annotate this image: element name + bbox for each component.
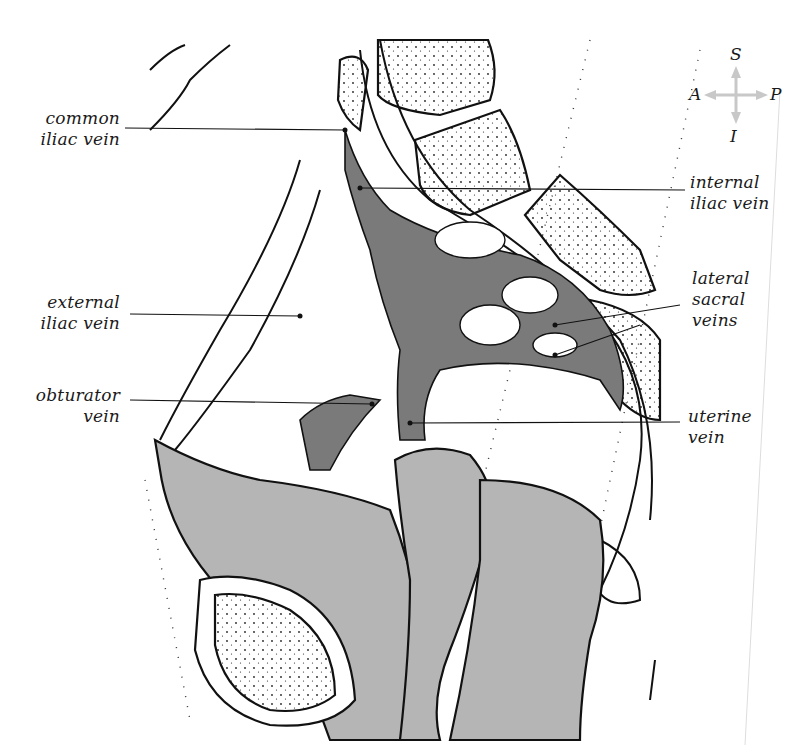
label-external-iliac-vein: external iliac vein (10, 292, 120, 334)
compass-posterior: P (770, 84, 781, 104)
orientation-compass-arrows (704, 66, 768, 124)
label-uterine-vein: uterine vein (688, 406, 788, 448)
label-internal-iliac-vein: internal iliac vein (690, 172, 795, 214)
pelvic-veins-diagram: S I A P common iliac vein external iliac… (0, 0, 796, 749)
label-lateral-sacral-veins: lateral sacral veins (692, 268, 792, 331)
compass-anterior: A (689, 84, 701, 104)
pelvic-organs (155, 440, 603, 740)
label-common-iliac-vein: common iliac vein (10, 108, 120, 150)
compass-superior: S (730, 44, 742, 64)
label-obturator-vein: obturator vein (10, 385, 120, 427)
compass-inferior: I (730, 126, 737, 146)
